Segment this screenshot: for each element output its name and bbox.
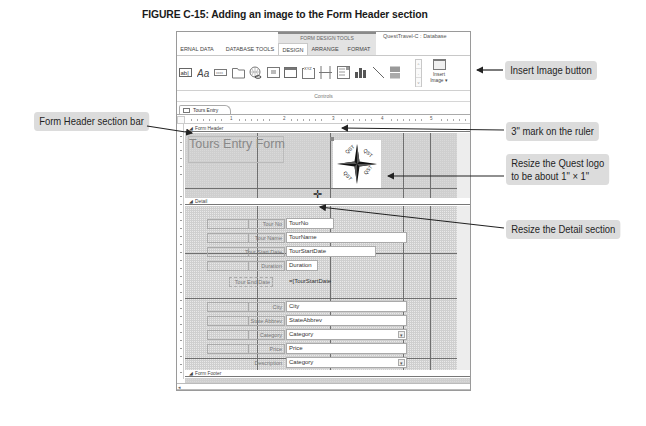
field-state-abbrev[interactable]: StateAbbrev <box>286 315 407 326</box>
access-window: FORM DESIGN TOOLS QuestTravel-C : Databa… <box>176 31 471 391</box>
field-tour-start-date[interactable]: TourStartDate <box>286 246 376 257</box>
image-icon <box>433 59 446 70</box>
label-tour-start-date[interactable]: Tour Start Date <box>207 247 285 257</box>
svg-text:XYZ: XYZ <box>304 66 312 71</box>
callout-form-header-bar: Form Header section bar <box>34 112 149 131</box>
ruler-mark-5: 5 <box>430 116 433 121</box>
form-width-outside <box>457 206 471 370</box>
label-description[interactable]: Description <box>243 358 285 368</box>
ribbon-tabs: ERNAL DATA DATABASE TOOLS DESIGN ARRANGE… <box>177 43 470 55</box>
label-tour-end-date[interactable]: Tour End Date <box>229 277 273 287</box>
controls-group-label: Controls <box>177 91 470 102</box>
option-group-icon[interactable]: XYZ <box>302 66 315 79</box>
callout-insert-image: Insert Image button <box>505 61 597 80</box>
ruler-mark-2: 2 <box>283 116 286 121</box>
label-icon[interactable]: Aa <box>197 66 210 79</box>
form-footer-section-bar[interactable]: ◢Form Footer <box>185 370 471 377</box>
label-category[interactable]: Category <box>207 330 285 340</box>
field-tour-name[interactable]: TourName <box>286 232 407 243</box>
callout-ruler-mark: 3" mark on the ruler <box>506 122 599 141</box>
form-icon <box>183 108 190 113</box>
dropdown-arrow-icon[interactable]: ▾ <box>398 331 405 338</box>
navigation-control-icon[interactable] <box>284 66 297 79</box>
section-arrow-icon: ◢ <box>189 125 193 131</box>
page-break-icon[interactable] <box>319 66 332 79</box>
text-box-icon[interactable]: ab| <box>179 66 192 79</box>
section-arrow-icon: ◢ <box>189 370 193 376</box>
ruler-mark-1: 1 <box>230 116 233 121</box>
gallery-down-icon[interactable]: - <box>416 69 421 78</box>
callout-resize-detail: Resize the Detail section <box>506 220 620 239</box>
horizontal-scrollbar[interactable]: ◂ <box>177 383 470 390</box>
chart-icon[interactable] <box>354 66 367 79</box>
quest-logo-image[interactable]: QST QST QST QST <box>333 140 381 188</box>
button-icon[interactable]: xxxx <box>214 66 227 79</box>
controls-gallery: ab| Aa xxxx XYZ <box>179 64 407 80</box>
ribbon-controls-group: ab| Aa xxxx XYZ <box>177 55 470 91</box>
label-price[interactable]: Price <box>207 344 285 354</box>
svg-text:ab|: ab| <box>181 70 190 76</box>
tab-control-icon[interactable] <box>232 66 245 79</box>
move-cursor-icon: ✛ <box>313 189 322 199</box>
form-header-section-bar[interactable]: ◢Form Header <box>185 125 471 132</box>
compass-logo-icon: QST QST QST QST <box>333 140 381 188</box>
web-browser-icon[interactable] <box>267 66 280 79</box>
hyperlink-icon[interactable] <box>249 66 262 79</box>
field-duration[interactable]: Duration <box>286 260 318 271</box>
svg-text:QST: QST <box>362 147 374 158</box>
dropdown-arrow-icon[interactable]: ▾ <box>398 359 405 366</box>
form-header-section[interactable]: Tours Entry Form QST QST QST QST <box>185 133 471 198</box>
form-design-tools-context: FORM DESIGN TOOLS <box>278 32 376 43</box>
ruler-mark-4: 4 <box>381 116 384 121</box>
label-city[interactable]: City <box>207 302 285 312</box>
line-icon[interactable] <box>372 66 385 79</box>
label-tour-no[interactable]: Tour No <box>207 219 285 229</box>
tab-database-tools[interactable]: DATABASE TOOLS <box>224 43 276 55</box>
detail-section-bar[interactable]: ◢Detail <box>185 198 471 205</box>
callout-resize-logo: Resize the Quest logo to be about 1" × 1… <box>506 154 609 185</box>
tab-divider <box>177 114 470 115</box>
label-tour-name[interactable]: Tour Name <box>207 233 285 243</box>
tab-design[interactable]: DESIGN <box>278 43 308 55</box>
horizontal-ruler[interactable]: 1 2 3 4 5 <box>185 116 471 124</box>
detail-section[interactable]: Tour No TourNo Tour Name TourName Tour S… <box>185 206 471 370</box>
field-tour-no[interactable]: TourNo <box>286 218 334 229</box>
title-bar: FORM DESIGN TOOLS QuestTravel-C : Databa… <box>177 32 470 43</box>
svg-text:QST: QST <box>342 170 353 182</box>
figure-caption: FIGURE C-15: Adding an image to the Form… <box>142 8 428 20</box>
form-selector[interactable] <box>177 116 185 124</box>
ruler-mark-3: 3 <box>332 116 335 121</box>
vertical-ruler[interactable] <box>177 124 184 379</box>
gallery-scrollbar[interactable]: ^ - v <box>415 59 422 87</box>
toggle-button-icon[interactable] <box>389 66 402 79</box>
header-title-label[interactable]: Tours Entry Form <box>188 136 284 163</box>
scroll-left-icon[interactable]: ◂ <box>178 384 181 390</box>
svg-text:xxxx: xxxx <box>216 71 223 75</box>
field-description[interactable]: Category ▾ <box>286 357 407 368</box>
tab-arrange[interactable]: ARRANGE <box>308 43 342 55</box>
gallery-up-icon[interactable]: ^ <box>416 60 421 69</box>
insert-image-button[interactable]: Insert Image ▾ <box>427 58 451 90</box>
svg-text:QST: QST <box>344 144 356 155</box>
field-city[interactable]: City <box>286 301 407 312</box>
section-arrow-icon: ◢ <box>189 198 193 204</box>
document-tab-tours-entry-form[interactable]: Tours Entry Form <box>179 105 231 114</box>
label-state-abbrev[interactable]: State Abbrev <box>207 316 285 326</box>
resize-handle[interactable] <box>330 137 334 141</box>
field-price[interactable]: Price <box>286 343 407 354</box>
field-category[interactable]: Category ▾ <box>286 329 407 340</box>
gallery-more-icon[interactable]: v <box>416 78 421 87</box>
form-design-view: Tours Entry Form 1 2 3 4 5 <box>177 104 470 391</box>
figure-title: Adding an image to the Form Header secti… <box>211 8 427 20</box>
tab-format[interactable]: FORMAT <box>342 43 376 55</box>
label-duration[interactable]: Duration <box>207 261 285 271</box>
form-width-outside <box>457 133 471 198</box>
field-tour-end-date[interactable]: =[TourStartDate <box>286 276 336 287</box>
svg-text:Aa: Aa <box>197 67 210 78</box>
app-title: QuestTravel-C : Database <box>383 33 447 39</box>
tab-external-data[interactable]: ERNAL DATA <box>177 43 217 55</box>
combo-box-icon[interactable] <box>337 66 350 79</box>
